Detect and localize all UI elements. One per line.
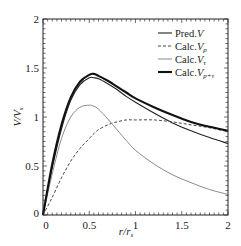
y-tick-label: 1.5 — [25, 62, 39, 74]
y-tick-label: 0 — [34, 207, 40, 219]
x-tick-label: 2 — [225, 219, 231, 231]
y-axis-label: V/Vs — [11, 107, 25, 127]
x-axis-label: r/rs — [119, 225, 134, 239]
x-tick-label: 1 — [133, 219, 139, 231]
legend: Pred.VCalc.VpCalc.VτCalc.Vp+τ — [158, 28, 215, 80]
legend-label: Calc.Vp — [175, 41, 207, 54]
legend-label: Calc.Vp+τ — [175, 67, 215, 80]
plot-curves — [43, 74, 228, 215]
y-tick-label: 1 — [34, 111, 40, 123]
velocity-ratio-chart: 00.511.5200.511.52 r/rs V/Vs Pred.VCalc.… — [0, 0, 241, 246]
x-tick-label: 0.5 — [82, 219, 96, 231]
legend-label: Pred.V — [175, 28, 205, 39]
x-tick-label: 1.5 — [175, 219, 189, 231]
calc-vtau-curve — [43, 105, 228, 215]
legend-label: Calc.Vτ — [175, 54, 206, 67]
x-tick-label: 0 — [43, 219, 49, 231]
y-tick-label: 0.5 — [25, 160, 39, 172]
calc-vptau-curve — [43, 74, 228, 215]
y-tick-label: 2 — [34, 13, 40, 25]
